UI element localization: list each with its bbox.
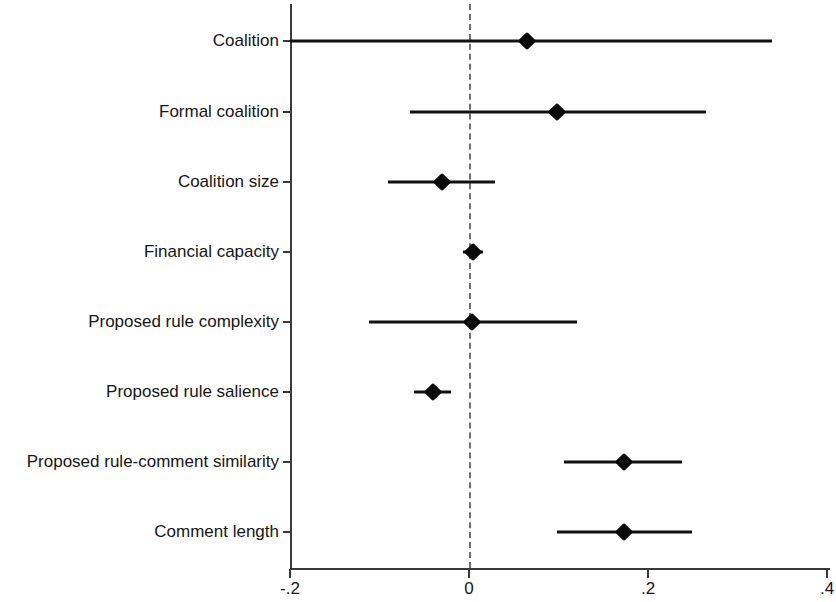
y-axis-label: Coalition size (178, 173, 279, 191)
x-axis-tick-label: 0 (464, 579, 473, 599)
x-axis-tick (826, 569, 828, 578)
y-axis-label-row: Coalition size (0, 173, 279, 191)
y-axis-label-row: Proposed rule complexity (0, 313, 279, 331)
y-axis-label-row: Proposed rule salience (0, 383, 279, 401)
y-axis-label: Comment length (154, 523, 279, 541)
x-axis-tick-label: -.2 (280, 579, 300, 599)
y-axis-label: Proposed rule-comment similarity (27, 453, 279, 471)
y-axis-label: Formal coalition (159, 103, 279, 121)
y-axis-label-row: Proposed rule-comment similarity (0, 453, 279, 471)
coefficient-point-marker (424, 383, 442, 401)
y-axis-label: Coalition (213, 32, 279, 50)
y-axis-tick (283, 111, 291, 113)
coefficient-point-marker (518, 32, 536, 50)
y-axis-line (290, 4, 292, 570)
y-axis-tick (283, 391, 291, 393)
coefficient-point-marker (463, 243, 481, 261)
coefficient-plot-figure: CoalitionFormal coalitionCoalition sizeF… (0, 0, 836, 602)
y-axis-tick (283, 181, 291, 183)
y-axis-label-row: Coalition (0, 32, 279, 50)
x-axis-tick-label: .2 (641, 579, 655, 599)
x-axis-line (290, 568, 830, 570)
y-axis-label: Proposed rule salience (106, 383, 279, 401)
y-axis-tick (283, 461, 291, 463)
coefficient-point-marker (462, 313, 480, 331)
y-axis-tick (283, 531, 291, 533)
y-axis-label: Financial capacity (144, 243, 279, 261)
x-axis-tick (647, 569, 649, 578)
y-axis-label: Proposed rule complexity (88, 313, 279, 331)
zero-reference-line (469, 4, 471, 568)
y-axis-label-row: Comment length (0, 523, 279, 541)
coefficient-point-marker (433, 173, 451, 191)
x-axis-tick (289, 569, 291, 578)
coefficient-point-marker (615, 453, 633, 471)
coefficient-point-marker (548, 103, 566, 121)
coefficient-point-marker (615, 523, 633, 541)
y-axis-tick (283, 251, 291, 253)
x-axis-tick-label: .4 (820, 579, 834, 599)
y-axis-label-row: Formal coalition (0, 103, 279, 121)
y-axis-label-row: Financial capacity (0, 243, 279, 261)
y-axis-tick (283, 321, 291, 323)
x-axis-tick (468, 569, 470, 578)
